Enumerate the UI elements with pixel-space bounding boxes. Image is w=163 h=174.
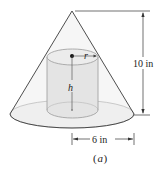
cone-radius-label: 6 in — [92, 134, 107, 145]
cone-cylinder-diagram: r h 10 in 6 in ( a ) — [0, 0, 163, 174]
height-label: h — [68, 82, 73, 93]
svg-text:): ) — [104, 152, 108, 165]
svg-text:(: ( — [93, 152, 97, 165]
cone-height-label: 10 in — [133, 58, 153, 69]
cone-radius-dimension: 6 in — [72, 133, 134, 145]
figure-caption: ( a ) — [93, 152, 108, 165]
radius-label: r — [84, 50, 88, 61]
